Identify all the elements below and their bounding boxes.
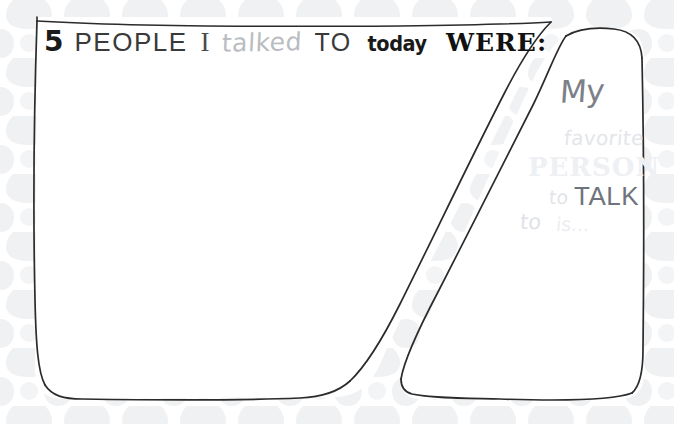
journal-page: 5 PEOPLE I talked TO today WERE: My favo… — [0, 0, 674, 424]
title-were-label: WERE: — [446, 30, 547, 55]
favorite-person-writing-area[interactable] — [430, 240, 630, 390]
title-count: 5 — [44, 28, 63, 56]
page-title: 5 PEOPLE I talked TO today WERE: — [44, 28, 547, 56]
title-people-label: PEOPLE — [74, 29, 187, 55]
title-when: today — [367, 34, 426, 55]
title-preposition: TO — [314, 30, 351, 55]
answer-box-writing-area[interactable] — [40, 60, 360, 390]
title-verb: talked — [221, 29, 302, 56]
title-pronoun: I — [201, 29, 210, 56]
